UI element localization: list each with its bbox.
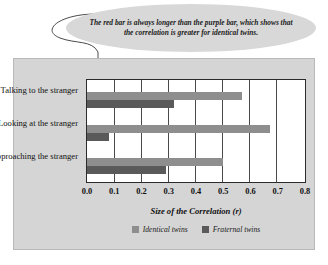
bar-talking-fraternal: [87, 100, 174, 108]
x-tick-0.6: 0.6: [245, 187, 255, 196]
bar-row-approaching-identical: [87, 158, 305, 166]
callout-text: The red bar is always longer than the pu…: [85, 18, 297, 37]
x-axis-title: Size of the Correlation (r): [86, 206, 306, 216]
category-label-looking: Looking at the stranger: [0, 118, 78, 128]
bar-row-talking-identical: [87, 92, 305, 100]
plot-area: [86, 79, 306, 183]
bar-looking-fraternal: [87, 133, 109, 141]
legend-item-fraternal: Fraternal twins: [202, 225, 260, 234]
legend-label-fraternal: Fraternal twins: [213, 225, 260, 234]
category-label-approaching: Approaching the stranger: [0, 151, 78, 161]
bar-row-talking-fraternal: [87, 100, 305, 108]
x-tick-0.5: 0.5: [218, 187, 228, 196]
bar-row-looking-identical: [87, 125, 305, 133]
legend-label-identical: Identical twins: [143, 225, 188, 234]
x-tick-0.7: 0.7: [273, 187, 283, 196]
chart-legend: Identical twins Fraternal twins: [86, 225, 306, 234]
bar-talking-identical: [87, 92, 242, 100]
legend-swatch-identical-icon: [132, 226, 139, 233]
legend-swatch-fraternal-icon: [202, 226, 209, 233]
callout-bubble: The red bar is always longer than the pu…: [66, 4, 316, 52]
bar-approaching-identical: [87, 158, 223, 166]
bar-row-approaching-fraternal: [87, 166, 305, 174]
bar-approaching-fraternal: [87, 166, 166, 174]
legend-item-identical: Identical twins: [132, 225, 188, 234]
x-tick-0.0: 0.0: [82, 187, 92, 196]
x-tick-0.1: 0.1: [109, 187, 119, 196]
x-tick-0.8: 0.8: [300, 187, 310, 196]
x-tick-0.2: 0.2: [136, 187, 146, 196]
bar-looking-identical: [87, 125, 270, 133]
chart-panel: Talking to the stranger Looking at the s…: [13, 58, 315, 250]
x-tick-0.4: 0.4: [191, 187, 201, 196]
category-label-talking: Talking to the stranger: [0, 85, 78, 95]
x-tick-0.3: 0.3: [164, 187, 174, 196]
bar-row-looking-fraternal: [87, 133, 305, 141]
